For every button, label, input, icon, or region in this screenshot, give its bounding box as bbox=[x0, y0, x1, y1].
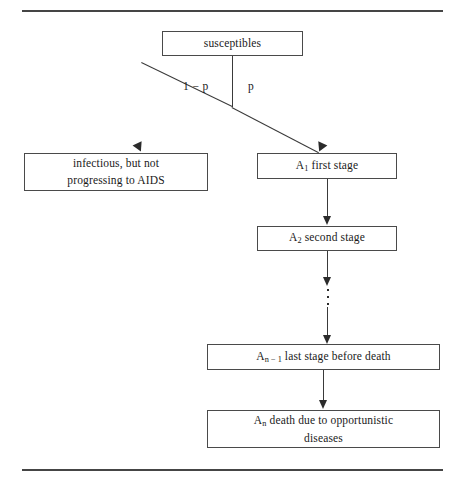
node-stage-2: A2 second stage bbox=[257, 226, 397, 251]
node-stage-death-line1: An death due to opportunistic bbox=[254, 412, 393, 430]
node-stage-1-label: first stage bbox=[308, 159, 358, 171]
arrowhead-to-stage2 bbox=[323, 216, 331, 225]
node-stage-last-text: An − 1 last stage before death bbox=[256, 348, 391, 366]
node-stage-last-subscript: n − 1 bbox=[265, 355, 282, 364]
node-infectious-text: infectious, but not progressing to AIDS bbox=[67, 155, 164, 188]
arrowhead-to-death bbox=[319, 400, 327, 409]
node-stage-1: A1 first stage bbox=[257, 153, 397, 179]
node-stage-2-text: A2 second stage bbox=[289, 229, 365, 247]
node-stage-death-text: An death due to opportunistic diseases bbox=[254, 412, 393, 447]
connector-fork-arm-right bbox=[232, 107, 319, 153]
bottom-horizontal-rule bbox=[22, 469, 443, 471]
node-stage-2-label: second stage bbox=[302, 231, 365, 243]
top-horizontal-rule bbox=[22, 10, 443, 12]
connector-stage-last-to-death bbox=[323, 370, 324, 402]
connector-stage2-to-ellipsis bbox=[327, 251, 328, 279]
node-infectious-not-progressing: infectious, but not progressing to AIDS bbox=[24, 153, 208, 191]
node-stage-death-label: death due to opportunistic bbox=[266, 414, 393, 426]
connector-stage1-to-stage2 bbox=[327, 179, 328, 217]
node-stage-last: An − 1 last stage before death bbox=[207, 344, 440, 370]
node-infectious-line2: progressing to AIDS bbox=[67, 172, 164, 189]
node-stage-1-text: A1 first stage bbox=[296, 157, 358, 175]
branch-probability-left-label: 1 − p bbox=[183, 80, 209, 92]
node-susceptibles: susceptibles bbox=[162, 31, 303, 56]
ellipsis-dot bbox=[327, 303, 329, 305]
node-susceptibles-label: susceptibles bbox=[204, 35, 261, 52]
arrowhead-to-stage-last bbox=[323, 335, 331, 344]
branch-probability-right-label: p bbox=[248, 80, 254, 92]
arrowhead-to-infectious bbox=[133, 141, 146, 153]
connector-susceptibles-fork-stem bbox=[232, 56, 233, 107]
node-stage-death-line2: diseases bbox=[254, 430, 393, 447]
node-stage-2-symbol: A bbox=[289, 231, 297, 243]
node-stage-last-label: last stage before death bbox=[282, 350, 391, 362]
node-infectious-line1: infectious, but not bbox=[67, 155, 164, 172]
vertical-ellipsis-icon bbox=[324, 289, 331, 305]
node-stage-last-symbol: A bbox=[256, 350, 264, 362]
ellipsis-dot bbox=[327, 296, 329, 298]
figure-canvas: susceptibles 1 − p p infectious, but not… bbox=[0, 0, 465, 485]
ellipsis-dot bbox=[327, 289, 329, 291]
node-stage-death: An death due to opportunistic diseases bbox=[207, 410, 440, 448]
connector-ellipsis-to-stage-last bbox=[327, 307, 328, 337]
arrowhead-to-ellipsis bbox=[323, 277, 331, 286]
